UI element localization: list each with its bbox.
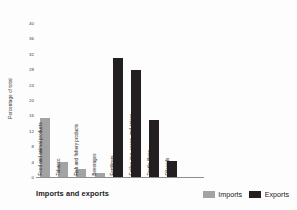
y-axis-tick: 8 (18, 145, 34, 149)
bar-slot: Fertilizers (109, 24, 127, 177)
y-axis-label: Percentage of total (8, 69, 13, 129)
legend-swatch-imports (203, 191, 215, 198)
y-axis-tick: 40 (18, 22, 34, 26)
y-axis-tick: 20 (18, 99, 34, 103)
legend-label-exports: Exports (265, 190, 289, 199)
bar-category-label: Tobacco (56, 158, 61, 175)
bar-category-label: Food and animal products (38, 122, 43, 175)
y-axis-tick: 0 (18, 176, 34, 180)
bar-slot: Beverages (91, 24, 109, 177)
bar-slot: Coffee, tea, cocoa, and spices (127, 24, 145, 177)
bar-category-label: Coffee, tea, cocoa, and spices (129, 113, 134, 175)
bar-category-label: Textile fibers (147, 149, 152, 175)
y-axis-tick-labels: 4036322824201612840 (18, 24, 34, 178)
chart-title: Imports and exports (36, 189, 109, 198)
y-axis-tick: 16 (18, 114, 34, 118)
legend-label-imports: Imports (218, 190, 242, 199)
legend-swatch-exports (249, 191, 261, 198)
bar-slot: Oilseeds (163, 24, 181, 177)
bar-chart: Percentage of total 4036322824201612840 … (0, 0, 297, 210)
bar-category-label: Fertilizers (111, 155, 116, 175)
plot-area: Food and animal productsTobaccoFish and … (36, 24, 200, 178)
bar-category-label: Oilseeds (166, 157, 171, 175)
y-axis-tick: 36 (18, 37, 34, 41)
bar-category-label: Beverages (93, 153, 98, 175)
bar-slot: Food and animal products (36, 24, 54, 177)
y-axis-tick: 12 (18, 130, 34, 134)
x-axis-line (36, 177, 204, 178)
y-axis-tick: 32 (18, 53, 34, 57)
legend-item-exports: Exports (249, 190, 289, 199)
bar-group: Food and animal productsTobaccoFish and … (36, 24, 200, 177)
bar-slot: Fish and fishery products (72, 24, 90, 177)
legend-item-imports: Imports (203, 190, 242, 199)
bar-slot: Tobacco (54, 24, 72, 177)
bar-slot: Textile fibers (145, 24, 163, 177)
y-axis-tick: 4 (18, 160, 34, 164)
y-axis-tick: 24 (18, 83, 34, 87)
y-axis-tick: 28 (18, 68, 34, 72)
legend: Imports Exports (203, 190, 289, 199)
bar-category-label: Fish and fishery products (75, 123, 80, 175)
